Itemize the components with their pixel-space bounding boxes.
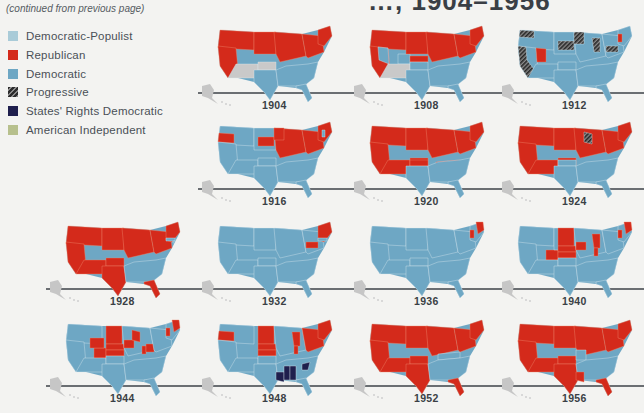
region-texas [254, 364, 278, 394]
region-dakotas [258, 326, 274, 344]
year-label: 1944 [110, 392, 135, 404]
election-map-1912: 1912 [500, 24, 644, 119]
region-pennsylvania [606, 46, 618, 52]
region-florida [144, 280, 160, 298]
page-title-fragment: …, 1904–1956 [368, 0, 551, 17]
region-texas [406, 166, 430, 196]
region-texas [554, 266, 578, 296]
alaska-shape [202, 180, 218, 200]
region-kansas [106, 350, 124, 356]
hawaii-island [221, 197, 223, 199]
region-kansas [410, 56, 428, 62]
region-texas [254, 266, 278, 296]
hawaii-island [373, 197, 375, 199]
year-label: 1932 [262, 295, 287, 307]
region-new-england [470, 26, 484, 46]
legend-item-states-rights-democratic: States' Rights Democratic [8, 102, 163, 121]
region-plains-south [258, 258, 276, 266]
election-map-1956: 1956 [500, 318, 644, 413]
hawaii-island [229, 104, 231, 106]
region-plains-north [102, 228, 124, 250]
alaska-shape [354, 180, 370, 200]
region-florida [296, 378, 312, 396]
legend-label: States' Rights Democratic [26, 105, 163, 117]
hawaii-island [529, 300, 531, 302]
region-kansas [558, 252, 576, 258]
region-texas [102, 266, 126, 296]
region-mississippi [284, 366, 290, 380]
swatch-democratic-populist [8, 31, 18, 41]
region-plains-south [258, 356, 276, 364]
alaska-shape [50, 377, 66, 397]
hawaii-island [221, 101, 223, 103]
hawaii-island [221, 297, 223, 299]
hawaii-island [377, 299, 379, 301]
election-map-1908: 1908 [352, 24, 502, 119]
region-plains-north [254, 32, 276, 54]
hawaii-island [381, 200, 383, 202]
region-wisconsin [584, 132, 592, 144]
election-map-1904: 1904 [200, 24, 350, 119]
year-label: 1952 [414, 392, 439, 404]
region-plains-north [406, 228, 428, 250]
region-indiana [142, 346, 146, 354]
legend-label: Democratic-Populist [26, 30, 133, 42]
region-florida [448, 84, 464, 102]
year-label: 1904 [262, 99, 287, 111]
region-plains-south [558, 62, 576, 70]
region-texas [406, 266, 430, 296]
hawaii-island [525, 199, 527, 201]
alaska-shape [502, 280, 518, 300]
region-plains-south [558, 356, 576, 364]
region-florida [296, 180, 312, 198]
hawaii-island [373, 297, 375, 299]
hawaii-island [69, 297, 71, 299]
hawaii-island [73, 396, 75, 398]
alaska-shape [502, 84, 518, 104]
year-label: 1908 [414, 99, 439, 111]
legend-item-democratic-populist: Democratic-Populist [8, 27, 163, 46]
region-nebraska [558, 246, 576, 252]
legend-label: American Independent [26, 124, 146, 136]
hawaii-island [521, 394, 523, 396]
swatch-democratic [8, 69, 18, 79]
region-new-england [618, 122, 632, 142]
region-florida [296, 280, 312, 298]
region-massachusetts [318, 238, 327, 241]
year-label: 1920 [414, 195, 439, 207]
hawaii-island [225, 299, 227, 301]
region-florida [144, 378, 160, 396]
election-map-1940: 1940 [500, 220, 644, 315]
hawaii-island [77, 300, 79, 302]
hawaii-island [373, 394, 375, 396]
year-label: 1916 [262, 195, 287, 207]
region-iowa [124, 340, 134, 348]
region-dakotas [558, 228, 574, 246]
swatch-republican [8, 50, 18, 60]
region-texas [554, 70, 578, 100]
region-colorado [94, 348, 106, 358]
region-plains-north [554, 128, 576, 150]
region-plains-north [254, 228, 276, 250]
election-map-1948: 1948 [200, 318, 350, 413]
alaska-shape [354, 280, 370, 300]
region-florida [296, 84, 312, 102]
region-massachusetts [166, 238, 175, 241]
region-wyoming [90, 338, 104, 348]
region-nebraska [258, 344, 276, 350]
region-new-hampshire [322, 130, 325, 137]
region-rhode-island [173, 241, 175, 243]
alaska-shape [502, 377, 518, 397]
hawaii-island [381, 397, 383, 399]
year-label: 1924 [562, 195, 587, 207]
region-missouri [576, 350, 586, 360]
legend-item-american-independent: American Independent [8, 120, 163, 139]
region-plains-north [406, 326, 428, 348]
region-plains-south [410, 258, 428, 266]
hawaii-island [373, 101, 375, 103]
hawaii-island [381, 104, 383, 106]
hawaii-island [69, 394, 71, 396]
region-new-england [618, 320, 632, 340]
legend: Democratic-Populist Republican Democrati… [8, 27, 163, 139]
alaska-shape [50, 280, 66, 300]
